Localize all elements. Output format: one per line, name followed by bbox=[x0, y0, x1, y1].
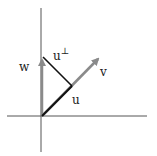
vector-diagram: w u⊥ v u bbox=[0, 0, 157, 156]
diagram-svg: w u⊥ v u bbox=[0, 0, 157, 156]
label-u-perp-sup: ⊥ bbox=[61, 46, 69, 56]
label-w: w bbox=[19, 60, 30, 74]
label-u-perp: u⊥ bbox=[53, 46, 69, 63]
label-v: v bbox=[99, 65, 107, 79]
vector-u bbox=[42, 86, 72, 116]
label-u: u bbox=[72, 93, 80, 107]
